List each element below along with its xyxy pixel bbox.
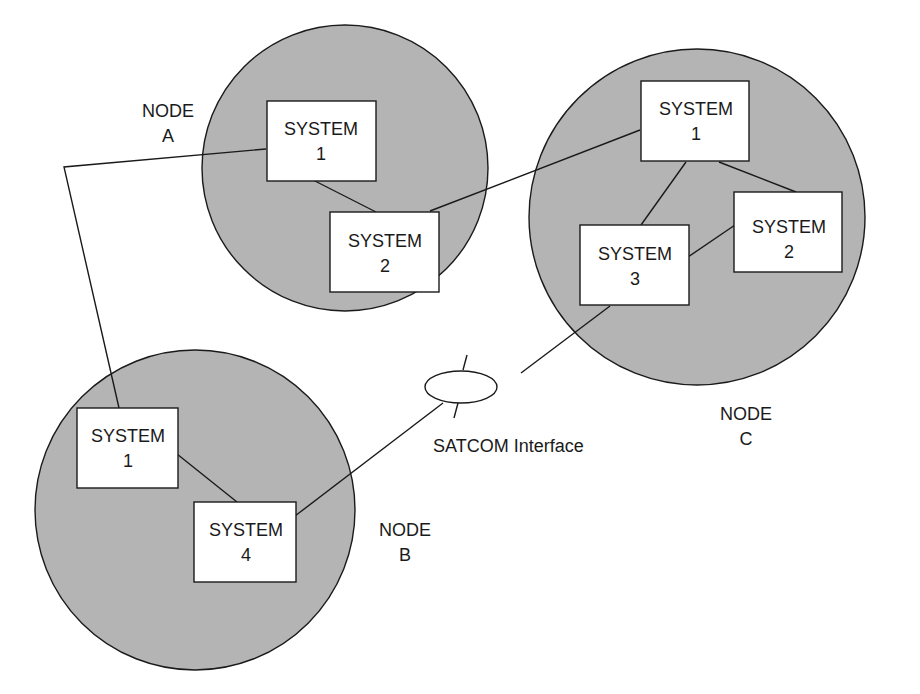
system-c3-number: 3: [630, 269, 640, 289]
system-b4: SYSTEM 4: [194, 502, 296, 582]
svg-text:C: C: [740, 429, 753, 449]
system-a1: SYSTEM 1: [267, 101, 376, 181]
svg-text:B: B: [399, 545, 411, 565]
system-a1-number: 1: [316, 144, 326, 164]
network-diagram: SATCOM Interface SYSTEM 1 SYSTEM 2 SYSTE…: [0, 0, 920, 694]
system-c1-name: SYSTEM: [659, 99, 733, 119]
node-c-label: NODE C: [720, 404, 772, 449]
system-c2: SYSTEM 2: [734, 192, 842, 272]
node-a-label: NODE A: [142, 101, 194, 146]
system-b1-number: 1: [123, 451, 133, 471]
system-c3-name: SYSTEM: [598, 244, 672, 264]
system-a2-name: SYSTEM: [348, 231, 422, 251]
svg-text:A: A: [162, 126, 174, 146]
satcom-label: SATCOM Interface: [433, 436, 584, 456]
satcom-antenna-top: [463, 355, 467, 370]
system-c2-name: SYSTEM: [752, 217, 826, 237]
svg-text:NODE: NODE: [142, 101, 194, 121]
svg-text:NODE: NODE: [720, 404, 772, 424]
system-a1-name: SYSTEM: [284, 119, 358, 139]
system-a2-number: 2: [380, 256, 390, 276]
system-c3: SYSTEM 3: [580, 225, 689, 305]
node-b-label: NODE B: [379, 520, 431, 565]
system-b1-name: SYSTEM: [91, 426, 165, 446]
svg-text:NODE: NODE: [379, 520, 431, 540]
system-b4-name: SYSTEM: [209, 520, 283, 540]
system-b4-number: 4: [241, 545, 251, 565]
system-b1: SYSTEM 1: [77, 408, 178, 488]
satcom-interface: SATCOM Interface: [425, 355, 584, 456]
system-c1: SYSTEM 1: [641, 81, 749, 161]
system-c2-number: 2: [784, 242, 794, 262]
system-c1-number: 1: [691, 124, 701, 144]
satcom-ellipse-icon: [425, 371, 497, 403]
satcom-antenna-bottom: [454, 403, 458, 418]
system-a2: SYSTEM 2: [330, 212, 439, 292]
